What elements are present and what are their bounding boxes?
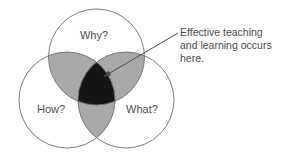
venn-diagram-canvas: Why? How? What? Effective teaching and l…	[0, 0, 288, 158]
circle-label-why: Why?	[80, 29, 108, 41]
circle-label-how: How?	[37, 103, 65, 115]
annotation-text-block: Effective teaching and learning occurs h…	[180, 26, 272, 64]
annotation-line-1: Effective teaching	[180, 26, 263, 38]
annotation-line-2: and learning occurs	[180, 39, 272, 51]
venn-diagram-container: Why? How? What? Effective teaching and l…	[0, 0, 288, 158]
circle-label-what: What?	[126, 103, 158, 115]
annotation-line-3: here.	[180, 52, 204, 64]
